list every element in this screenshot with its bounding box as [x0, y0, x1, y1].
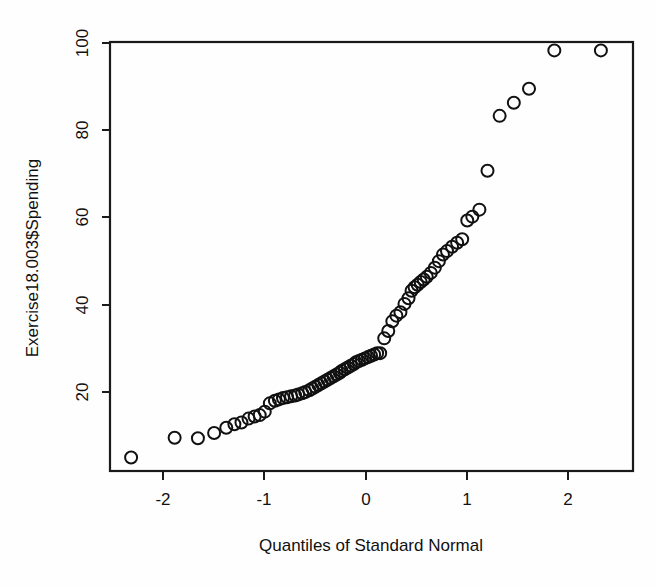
qq-plot-figure: 100 80 60 40 20 Exercise18.003$Spending … — [0, 0, 656, 587]
x-tick-label-neg1: -1 — [256, 490, 271, 509]
figure-background — [0, 0, 656, 587]
x-tick-label-0: 0 — [361, 490, 370, 509]
y-tick-label-100: 100 — [73, 29, 92, 57]
x-tick-label-neg2: -2 — [155, 490, 170, 509]
x-tick-label-2: 2 — [563, 490, 572, 509]
y-tick-label-60: 60 — [73, 208, 92, 227]
x-tick-label-1: 1 — [462, 490, 471, 509]
x-axis-title: Quantiles of Standard Normal — [259, 536, 483, 555]
y-tick-label-20: 20 — [73, 383, 92, 402]
y-tick-label-40: 40 — [73, 296, 92, 315]
y-tick-label-80: 80 — [73, 121, 92, 140]
y-axis-title: Exercise18.003$Spending — [23, 159, 42, 357]
plot-canvas: 100 80 60 40 20 Exercise18.003$Spending … — [0, 0, 656, 587]
